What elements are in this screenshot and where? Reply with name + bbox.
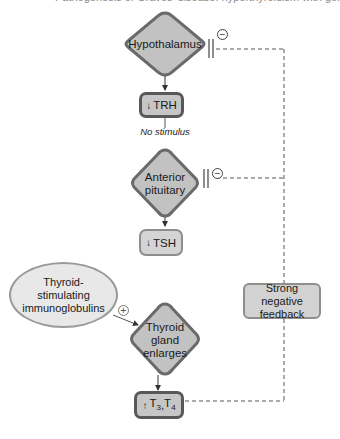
thyroid-label-line2: gland: [151, 334, 179, 347]
thyroid-label-line1: Thyroid: [146, 321, 184, 334]
down-arrow-icon: ↓: [146, 237, 151, 248]
pituitary-label-line2: pituitary: [145, 184, 185, 197]
t3-t4-node: ↑ T3, T4: [134, 391, 184, 419]
thyroid-node: Thyroid gland enlarges: [135, 320, 195, 360]
trh-label: TRH: [153, 99, 177, 111]
inhibit-symbol-hypothalamus: −: [217, 29, 228, 40]
up-arrow-icon: ↑: [142, 400, 147, 411]
negative-feedback-node: Strong negative feedback: [243, 283, 321, 319]
pituitary-label-line1: Anterior: [145, 171, 185, 184]
tsi-node: Thyroid- stimulating immunoglobulins: [9, 262, 118, 328]
inhibit-symbol-pituitary: −: [212, 168, 223, 179]
feedback-label-line2: feedback: [245, 308, 319, 321]
tsi-label-line3: immunoglobulins: [22, 302, 105, 315]
thyroid-label-line3: enlarges: [143, 347, 187, 360]
stimulate-symbol: +: [118, 305, 129, 316]
feedback-label-line1: Strong negative: [245, 282, 319, 308]
tsi-label-line2: stimulating: [22, 289, 105, 302]
diagram-shapes: [0, 0, 340, 439]
tsh-label: TSH: [153, 237, 176, 249]
hypothalamus-label: Hypothalamus: [128, 38, 202, 51]
anterior-pituitary-node: Anterior pituitary: [135, 170, 195, 198]
hypothalamus-node: Hypothalamus: [125, 36, 205, 52]
tsh-node: ↓ TSH: [139, 229, 183, 256]
no-stimulus-label: No stimulus: [125, 126, 205, 137]
trh-node: ↓ TRH: [139, 92, 184, 118]
down-arrow-icon: ↓: [146, 100, 151, 111]
tsi-label-line1: Thyroid-: [22, 276, 105, 289]
feedback-diagram: Pathogenesis of Graves' disease: hyperth…: [0, 0, 340, 439]
t3-label: T3: [149, 397, 160, 412]
t4-label: T4: [164, 397, 175, 412]
